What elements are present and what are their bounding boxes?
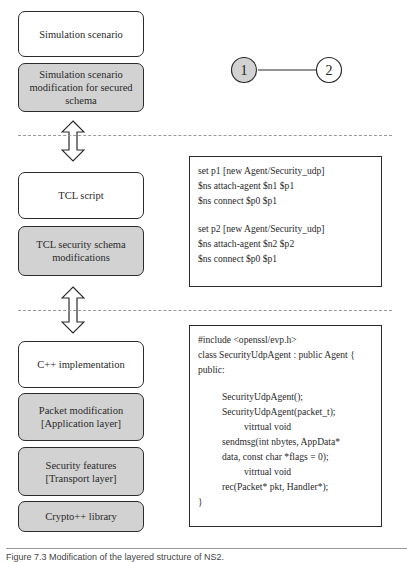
cpp-code-box: #include <openssl/evp.h> class SecurityU… xyxy=(189,325,382,527)
code-line: SecurityUdpAgent(); xyxy=(198,389,373,404)
code-line: set p2 [new Agent/Security_udp] xyxy=(198,221,373,236)
cpp-implementation-box: C++ implementation xyxy=(18,341,144,388)
code-line: set p1 [new Agent/Security_udp] xyxy=(198,163,373,178)
tcl-script-label: TCL script xyxy=(58,189,103,202)
layer-divider xyxy=(18,310,392,311)
simulation-scenario-label: Simulation scenario xyxy=(39,28,123,41)
packet-modification-box: Packet modification [Application layer] xyxy=(18,393,144,441)
tcl-script-box: TCL script xyxy=(18,172,144,219)
code-line: } xyxy=(198,494,373,509)
code-line: SecurityUdpAgent(packet_t); xyxy=(198,404,373,419)
network-topology: 1 2 xyxy=(228,54,348,90)
code-line: public: xyxy=(198,362,373,377)
code-line: #include <openssl/evp.h> xyxy=(198,332,373,347)
code-line: vitrtual void xyxy=(198,419,373,434)
application-layer-label: [Application layer] xyxy=(41,417,121,430)
code-line: data, const char *flags = 0); xyxy=(198,449,373,464)
tcl-security-schema-box: TCL security schema modifications xyxy=(18,226,144,276)
cpp-implementation-label: C++ implementation xyxy=(37,358,124,371)
security-features-box: Security features [Transport layer] xyxy=(18,447,144,496)
security-features-label: Security features xyxy=(46,459,117,472)
transport-layer-label: [Transport layer] xyxy=(45,472,116,485)
code-line: rec(Packet* pkt, Handler*); xyxy=(198,479,373,494)
simulation-scenario-modification-label: Simulation scenario modification for sec… xyxy=(27,68,135,107)
code-line xyxy=(198,377,373,389)
code-line: sendmsg(int nbytes, AppData* xyxy=(198,434,373,449)
simulation-scenario-modification-box: Simulation scenario modification for sec… xyxy=(18,63,144,112)
code-line: $ns connect $p0 $p1 xyxy=(198,193,373,208)
code-line xyxy=(198,208,373,221)
tcl-code-box: set p1 [new Agent/Security_udp] $ns atta… xyxy=(189,156,382,287)
layer-divider xyxy=(18,135,392,136)
crypto-library-label: Crypto++ library xyxy=(45,510,117,523)
node-1-label: 1 xyxy=(241,63,248,78)
node-2-label: 2 xyxy=(326,63,333,78)
code-line: $ns attach-agent $n2 $p2 xyxy=(198,236,373,251)
figure-caption: Figure 7.3 Modification of the layered s… xyxy=(6,548,407,562)
crypto-library-box: Crypto++ library xyxy=(18,501,144,532)
simulation-scenario-box: Simulation scenario xyxy=(18,11,144,57)
code-line: $ns attach-agent $n1 $p1 xyxy=(198,178,373,193)
double-arrow-icon xyxy=(61,120,85,162)
code-line: $ns connect $p0 $p1 xyxy=(198,251,373,266)
tcl-security-schema-label: TCL security schema modifications xyxy=(29,238,133,264)
code-line: vitrtual void xyxy=(198,464,373,479)
packet-modification-label: Packet modification xyxy=(39,404,123,417)
code-line: class SecurityUdpAgent : public Agent { xyxy=(198,347,373,362)
